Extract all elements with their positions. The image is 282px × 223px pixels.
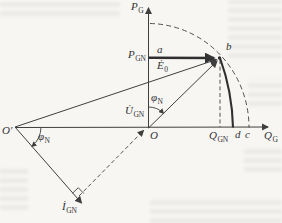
ign-label-sub: GN — [66, 206, 77, 215]
phi-label-at-o-main: φ — [151, 91, 157, 103]
e0-label-sub: 0 — [164, 65, 168, 74]
q-axis-label-sub: G — [272, 135, 277, 144]
q-axis-label-main: Q — [264, 129, 272, 141]
ugn-label: U̇GN — [125, 105, 144, 116]
e0-label: Ė0 — [157, 60, 168, 71]
origin-label: O — [150, 130, 158, 141]
phi-label-at-oprime-main: φ — [38, 130, 44, 142]
right-angle-mark — [73, 188, 84, 194]
origin-prime-label: O′ — [2, 125, 12, 136]
q-axis-label: QG — [264, 130, 278, 141]
e0-label-main: Ė — [157, 59, 164, 71]
phi-arc-at-o — [149, 107, 164, 113]
phi-label-at-o-sub: N — [158, 97, 163, 106]
perpendicular-dashed — [79, 131, 144, 197]
p-axis-label-sub: G — [138, 6, 143, 15]
qgn-label: QGN — [209, 130, 228, 141]
diagram-page: PG QG PGN QGN Ė0 U̇GN İGN φN φN O O′ a b… — [0, 0, 282, 223]
pgn-label-main: P — [128, 48, 135, 60]
phi-label-at-oprime: φN — [38, 131, 50, 142]
point-b-label: b — [226, 41, 232, 52]
qgn-label-main: Q — [209, 129, 217, 141]
q-axis — [15, 127, 268, 128]
field-limit-arc — [220, 58, 233, 128]
point-a-label: a — [157, 44, 163, 55]
ign-label: İGN — [62, 201, 77, 212]
phi-label-at-o: φN — [151, 92, 163, 103]
e0-phasor — [15, 60, 217, 128]
phi-label-at-oprime-sub: N — [45, 136, 50, 145]
ugn-label-sub: GN — [133, 110, 144, 119]
point-c-label: c — [245, 129, 250, 140]
point-d-label: d — [235, 129, 241, 140]
pgn-label: PGN — [120, 49, 146, 60]
p-axis-label-main: P — [131, 0, 138, 12]
ugn-label-main: U̇ — [125, 104, 133, 116]
pgn-label-sub: GN — [135, 54, 146, 63]
p-axis-label: PG — [131, 1, 144, 12]
point-b-dot — [218, 56, 221, 59]
qgn-label-sub: GN — [217, 135, 228, 144]
